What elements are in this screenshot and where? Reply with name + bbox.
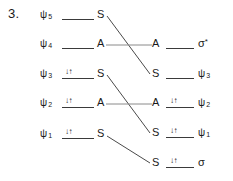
left-row-2-orbital-label: ψ4 <box>40 39 52 49</box>
left-row-1-level-line <box>62 19 94 20</box>
left-row-2-symmetry: A <box>97 38 104 49</box>
right-row-4-level-line <box>166 137 194 138</box>
left-row-5-orbital-label: ψ1 <box>40 129 52 139</box>
right-row-1-level-line <box>166 48 194 49</box>
left-row-4-electrons: ↓↑ <box>65 97 72 105</box>
left-row-3-orbital-label: ψ3 <box>40 69 52 79</box>
correlation-lines <box>0 0 233 181</box>
correlation-line-s3-to-s1 <box>107 75 150 133</box>
left-row-5-symmetry: S <box>97 128 104 139</box>
right-row-3-electrons: ↓↑ <box>170 97 177 105</box>
right-row-3-orbital-label: ψ2 <box>198 98 210 108</box>
right-row-1-orbital-label: σ* <box>198 38 208 49</box>
item-number: 3. <box>8 6 19 21</box>
right-row-5-electrons: ↓↑ <box>170 157 177 165</box>
orbital-correlation-diagram: 3. ψ5 S ψ4 A ψ3 ↓↑ S ψ2 ↓↑ A ψ1 ↓↑ <box>0 0 233 181</box>
correlation-line-s1-to-sigma <box>107 136 150 163</box>
right-row-3-level-line <box>166 107 194 108</box>
right-row-5-orbital-label: σ <box>198 157 205 168</box>
left-row-1-orbital-label: ψ5 <box>40 10 52 20</box>
right-row-4-orbital-label: ψ1 <box>198 128 210 138</box>
left-row-1-symmetry: S <box>97 9 104 20</box>
left-row-3-electrons: ↓↑ <box>65 68 72 76</box>
right-row-4-symmetry: S <box>152 127 159 138</box>
left-row-4-symmetry: A <box>97 97 104 108</box>
right-row-4-electrons: ↓↑ <box>170 127 177 135</box>
right-row-2-level-line <box>166 78 194 79</box>
left-row-4-orbital-label: ψ2 <box>40 98 52 108</box>
left-row-3-level-line <box>62 78 94 79</box>
left-row-4-level-line <box>62 107 94 108</box>
right-row-3-symmetry: A <box>152 97 159 108</box>
left-row-2-level-line <box>62 48 94 49</box>
left-row-5-electrons: ↓↑ <box>65 128 72 136</box>
right-row-1-symmetry: A <box>152 38 159 49</box>
right-row-2-symmetry: S <box>152 68 159 79</box>
right-row-5-level-line <box>166 167 194 168</box>
left-row-3-symmetry: S <box>97 68 104 79</box>
right-row-2-orbital-label: ψ3 <box>198 69 210 79</box>
left-row-5-level-line <box>62 138 94 139</box>
right-row-5-symmetry: S <box>152 157 159 168</box>
correlation-line-s5-to-s3 <box>107 16 150 74</box>
